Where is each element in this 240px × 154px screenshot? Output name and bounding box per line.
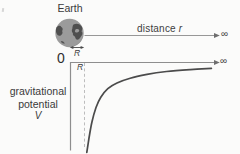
potential-axis-label: gravitational potential V xyxy=(6,85,70,123)
potential-zero-axis xyxy=(70,60,220,65)
potential-symbol: V xyxy=(6,110,70,123)
zero-axis-arrowhead-icon xyxy=(214,60,220,65)
earth-label: Earth xyxy=(53,3,87,14)
origin-zero-label: 0 xyxy=(57,51,65,65)
distance-axis-label: distance r xyxy=(137,24,182,34)
gravitational-potential-figure: Earth distance r ∞ ∞ 0 R R gravitational… xyxy=(0,0,240,154)
distance-arrowhead-icon xyxy=(214,33,220,38)
radius-arrow-label: R xyxy=(70,49,84,58)
ylabel-line1: gravitational xyxy=(6,85,70,98)
infinity-symbol-top: ∞ xyxy=(221,29,228,39)
potential-curve xyxy=(87,68,212,152)
radius-tick-label: R xyxy=(77,63,83,72)
ylabel-line2: potential xyxy=(6,98,70,111)
infinity-symbol-bottom: ∞ xyxy=(220,56,227,66)
distance-word: distance xyxy=(137,23,176,34)
distance-symbol: r xyxy=(179,23,183,34)
diagram-canvas xyxy=(0,0,240,154)
earth-globe-icon xyxy=(55,19,83,47)
